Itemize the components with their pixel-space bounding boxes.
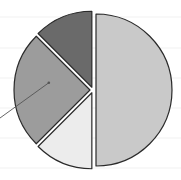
pie-slices: [14, 11, 172, 169]
leader-dot: [48, 81, 51, 84]
pie-slice-0: [96, 14, 172, 166]
pie-chart: [0, 0, 181, 180]
